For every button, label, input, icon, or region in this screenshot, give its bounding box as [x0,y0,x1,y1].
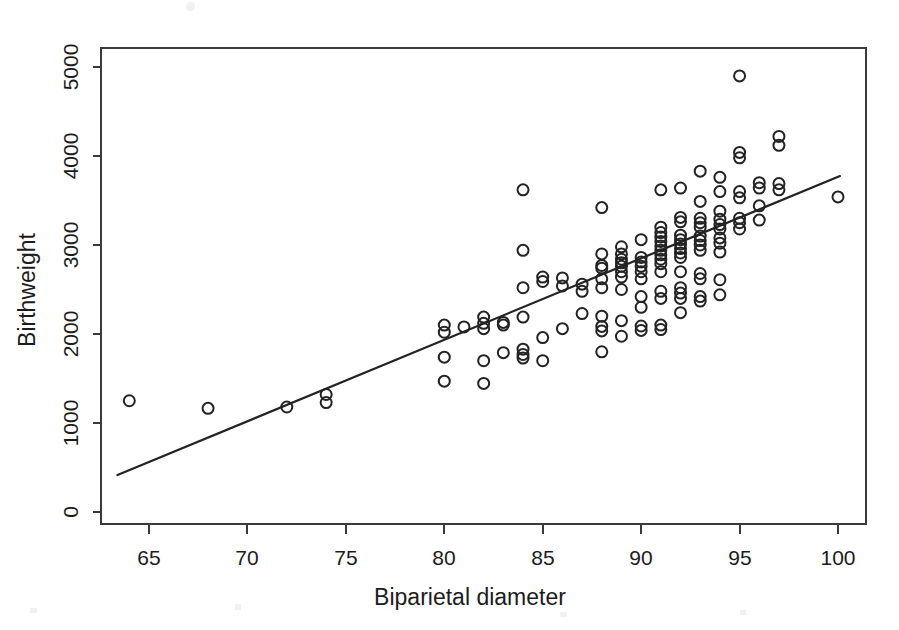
x-tick-label-65: 65 [137,546,160,569]
data-point [714,289,725,300]
data-point [596,248,607,259]
data-point [714,186,725,197]
x-tick-label-95: 95 [728,546,751,569]
x-axis-tick-labels: 65 70 75 80 85 90 95 100 [137,546,855,569]
data-point [498,347,509,358]
data-point [518,245,529,256]
scatter-points-layer [124,70,844,413]
scatter-plot-canvas: 0 1000 2000 3000 4000 5000 Birthweight 6… [0,0,899,630]
y-tick-label-5000: 5000 [59,44,82,91]
figure-root: 0 1000 2000 3000 4000 5000 Birthweight 6… [0,0,899,630]
x-tick-label-85: 85 [531,546,554,569]
data-point [655,266,666,277]
data-point [675,307,686,318]
plot-frame-box [101,48,866,524]
data-point [833,191,844,202]
data-point [577,308,588,319]
data-point [478,378,489,389]
data-point [537,332,548,343]
data-point [636,234,647,245]
y-tick-label-2000: 2000 [59,311,82,358]
data-point [518,282,529,293]
data-point [439,327,450,338]
data-point [754,215,765,226]
x-tick-label-100: 100 [820,546,855,569]
data-point [734,70,745,81]
y-tick-label-0: 0 [59,506,82,518]
data-point [478,355,489,366]
data-point [714,172,725,183]
y-axis-ticks [93,67,101,512]
data-point [557,323,568,334]
x-tick-label-80: 80 [432,546,455,569]
data-point [636,273,647,284]
y-tick-label-4000: 4000 [59,133,82,180]
y-tick-label-3000: 3000 [59,222,82,269]
data-point [695,166,706,177]
data-point [596,202,607,213]
data-point [518,184,529,195]
data-point [439,352,450,363]
data-point [518,312,529,323]
data-point [577,286,588,297]
x-tick-label-70: 70 [235,546,258,569]
data-point [636,291,647,302]
data-point [636,302,647,313]
y-tick-label-1000: 1000 [59,400,82,447]
data-point [596,346,607,357]
data-point [439,376,450,387]
data-point [675,183,686,194]
data-point [714,274,725,285]
data-point [655,184,666,195]
data-point [695,196,706,207]
data-point [616,284,627,295]
x-axis-title: Biparietal diameter [374,584,566,610]
data-point [616,331,627,342]
x-tick-label-90: 90 [629,546,652,569]
data-point [124,395,135,406]
data-point [321,397,332,408]
data-point [203,403,214,414]
y-axis-tick-labels: 0 1000 2000 3000 4000 5000 [59,44,82,518]
data-point [537,355,548,366]
x-tick-label-75: 75 [334,546,357,569]
x-axis-ticks [149,524,838,534]
data-point [655,293,666,304]
y-axis-title: Birthweight [14,233,40,347]
data-point [675,266,686,277]
data-point [616,315,627,326]
